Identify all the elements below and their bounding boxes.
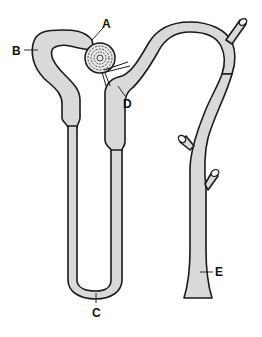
label-d: D — [123, 97, 132, 111]
nephron-diagram: A B C D E — [0, 0, 262, 337]
label-e: E — [215, 265, 223, 279]
label-b: B — [12, 44, 21, 58]
loop-of-henle — [68, 126, 122, 299]
distal-tubule — [105, 22, 235, 150]
label-c: C — [92, 306, 101, 320]
label-a: A — [102, 17, 111, 31]
proximal-tubule — [32, 30, 94, 128]
